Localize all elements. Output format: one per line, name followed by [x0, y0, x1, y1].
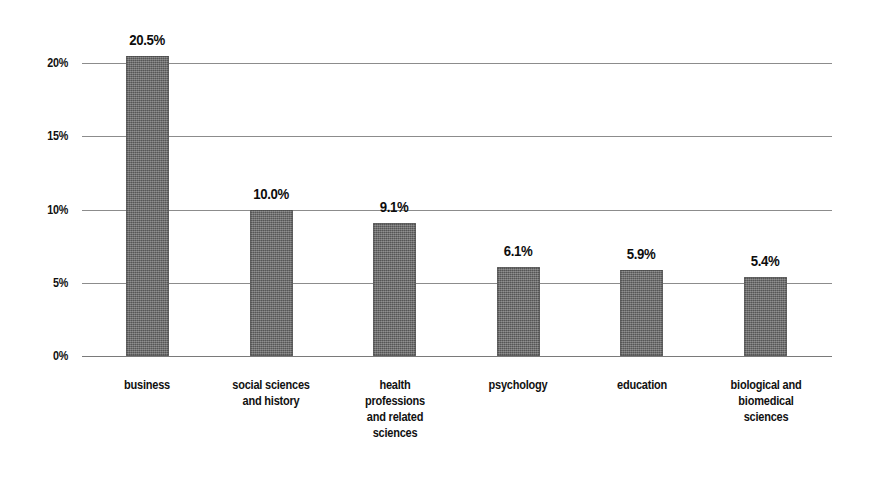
ytick-label-10: 10%: [32, 203, 68, 217]
bar-education[interactable]: [620, 270, 663, 356]
xtick-label-biological-and-biomedical-line-2: biomedical: [704, 393, 827, 409]
gridline-baseline-0: [82, 356, 832, 357]
xtick-label-health-professions-line-1: health: [333, 377, 456, 393]
xtick-label-biological-and-biomedical-line-1: biological and: [704, 377, 827, 393]
xtick-label-health-professions: health professions and related sciences: [333, 377, 456, 441]
gridline-5: [82, 283, 832, 284]
xtick-label-biological-and-biomedical-line-3: sciences: [704, 409, 827, 425]
ytick-15: 15%: [0, 129, 68, 143]
bar-value-psychology: 6.1%: [474, 242, 562, 259]
xtick-label-business-line-1: business: [85, 377, 208, 393]
plot-area: 20% 15% 10% 5% 0% 20.5% 10.0% 9.1% 6.1%: [0, 0, 873, 498]
bar-value-business: 20.5%: [103, 31, 191, 48]
bar-value-education: 5.9%: [597, 245, 685, 262]
gridline-15: [82, 136, 832, 137]
xtick-label-social-sciences-and-history: social sciences and history: [209, 377, 332, 409]
ytick-0: 0%: [0, 349, 68, 363]
xtick-label-health-professions-line-3: and related: [333, 409, 456, 425]
bar-psychology[interactable]: [497, 267, 540, 356]
xtick-label-social-sciences-and-history-line-2: and history: [209, 393, 332, 409]
xtick-label-education-line-1: education: [580, 377, 703, 393]
xtick-label-psychology: psychology: [456, 377, 579, 393]
ytick-10: 10%: [0, 203, 68, 217]
gridline-10: [82, 210, 832, 211]
ytick-label-5: 5%: [32, 276, 68, 290]
gridline-20: [82, 63, 832, 64]
xtick-label-health-professions-line-4: sciences: [333, 425, 456, 441]
ytick-label-15: 15%: [32, 129, 68, 143]
xtick-label-social-sciences-and-history-line-1: social sciences: [209, 377, 332, 393]
ytick-label-0: 0%: [32, 349, 68, 363]
bar-value-social-sciences-and-history: 10.0%: [227, 185, 315, 202]
bar-value-health-professions: 9.1%: [350, 198, 438, 215]
bar-biological-and-biomedical[interactable]: [744, 277, 787, 356]
xtick-label-biological-and-biomedical: biological and biomedical sciences: [704, 377, 827, 425]
xtick-label-health-professions-line-2: professions: [333, 393, 456, 409]
bar-business[interactable]: [126, 56, 169, 356]
bar-chart: 20% 15% 10% 5% 0% 20.5% 10.0% 9.1% 6.1%: [0, 0, 873, 498]
ytick-5: 5%: [0, 276, 68, 290]
bar-health-professions[interactable]: [373, 223, 416, 356]
ytick-label-20: 20%: [32, 56, 68, 70]
xtick-label-psychology-line-1: psychology: [456, 377, 579, 393]
ytick-20: 20%: [0, 56, 68, 70]
bar-value-biological-and-biomedical: 5.4%: [721, 252, 809, 269]
bar-social-sciences-and-history[interactable]: [250, 210, 293, 356]
xtick-label-business: business: [85, 377, 208, 393]
xtick-label-education: education: [580, 377, 703, 393]
